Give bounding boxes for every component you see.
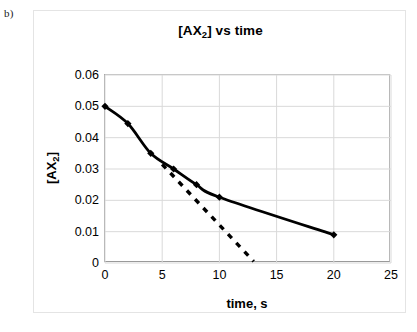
x-tick-label: 10 <box>212 268 226 282</box>
x-tick-label: 20 <box>327 268 341 282</box>
x-tick-label: 0 <box>102 268 109 282</box>
chart-title: [AX2] vs time <box>34 23 407 38</box>
y-tick-label: 0.03 <box>75 162 99 176</box>
x-tick-label: 5 <box>159 268 166 282</box>
x-tick-label: 15 <box>270 268 284 282</box>
chart-title-tail: ] vs time <box>207 23 263 38</box>
x-axis-title: time, s <box>104 296 390 311</box>
data-series-layer <box>105 75 391 263</box>
series-line-1 <box>162 164 254 261</box>
figure-label: b) <box>4 7 14 19</box>
data-point-marker <box>216 194 223 201</box>
y-tick-label: 0 <box>92 256 99 270</box>
y-axis-title: [AX2] <box>44 74 62 262</box>
chart-title-subscript: 2 <box>202 29 207 40</box>
chart-container: [AX2] vs time [AX2] 00.010.020.030.040.0… <box>33 10 406 313</box>
y-tick-label: 0.02 <box>75 193 99 207</box>
chart-title-base: [AX <box>178 23 202 38</box>
x-tick-label: 25 <box>384 268 398 282</box>
y-axis-title-base: [AX <box>44 162 59 184</box>
y-tick-label: 0.04 <box>75 131 99 145</box>
y-tick-label: 0.05 <box>75 99 99 113</box>
plot-area: 00.010.020.030.040.050.06 0510152025 <box>104 74 390 262</box>
y-tick-label: 0.06 <box>75 68 99 82</box>
y-tick-label: 0.01 <box>75 225 99 239</box>
series-line-0 <box>105 106 334 234</box>
y-axis-title-subscript: 2 <box>50 156 61 161</box>
data-point-marker <box>330 231 337 238</box>
